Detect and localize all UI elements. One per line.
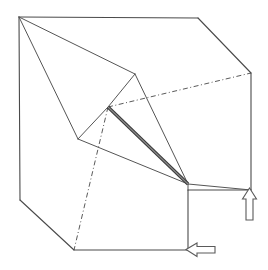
figure-container: [0, 0, 268, 270]
polyhedron-diagram: [0, 0, 268, 270]
left-arrow: [186, 243, 215, 257]
arrow-group: [186, 188, 257, 257]
up-arrow: [243, 188, 257, 220]
